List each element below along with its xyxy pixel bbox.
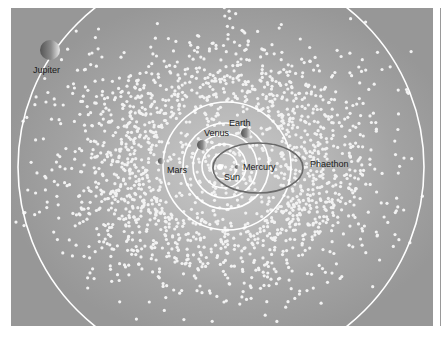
asteroid-dot (259, 287, 262, 290)
asteroid-dot (295, 97, 298, 100)
asteroid-dot (140, 101, 143, 104)
asteroid-dot (321, 98, 324, 101)
asteroid-dot (110, 226, 113, 229)
asteroid-dot (131, 231, 134, 234)
asteroid-dot (189, 184, 192, 187)
asteroid-dot (359, 169, 362, 172)
asteroid-dot (361, 244, 364, 247)
asteroid-dot (152, 243, 155, 246)
asteroid-dot (245, 107, 248, 110)
asteroid-dot (150, 62, 153, 65)
asteroid-dot (276, 162, 279, 165)
asteroid-dot (285, 249, 288, 252)
asteroid-dot (174, 40, 177, 43)
asteroid-dot (71, 92, 74, 95)
asteroid-dot (216, 222, 219, 225)
asteroid-dot (129, 153, 132, 156)
asteroid-dot (91, 124, 94, 127)
asteroid-dot (119, 95, 122, 98)
asteroid-dot (285, 98, 288, 101)
asteroid-dot (256, 237, 259, 240)
asteroid-dot (214, 93, 217, 96)
asteroid-dot (318, 69, 321, 72)
asteroid-dot (142, 201, 145, 204)
asteroid-dot (170, 95, 173, 98)
asteroid-dot (291, 214, 294, 217)
asteroid-dot (177, 233, 180, 236)
asteroid-dot (359, 156, 362, 159)
asteroid-dot (332, 204, 335, 207)
asteroid-dot (196, 216, 199, 219)
asteroid-dot (343, 174, 346, 177)
asteroid-dot (122, 168, 125, 171)
asteroid-dot (192, 253, 195, 256)
asteroid-dot (312, 177, 315, 180)
asteroid-dot (265, 97, 268, 100)
asteroid-dot (333, 177, 336, 180)
asteroid-dot (328, 200, 331, 203)
asteroid-dot (226, 233, 229, 236)
asteroid-dot (354, 142, 357, 145)
asteroid-dot (380, 201, 383, 204)
asteroid-dot (140, 188, 143, 191)
asteroid-dot (149, 189, 152, 192)
asteroid-dot (209, 73, 212, 76)
asteroid-dot (395, 197, 398, 200)
asteroid-dot (304, 249, 307, 252)
asteroid-dot (164, 226, 167, 229)
asteroid-dot (298, 222, 301, 225)
asteroid-dot (283, 177, 286, 180)
mercury-label: Mercury (243, 162, 276, 172)
asteroid-dot (202, 151, 205, 154)
asteroid-dot (134, 157, 137, 160)
asteroid-dot (100, 55, 103, 58)
asteroid-dot (301, 71, 304, 74)
asteroid-dot (309, 60, 312, 63)
asteroid-dot (292, 117, 295, 120)
asteroid-dot (267, 284, 270, 287)
asteroid-dot (259, 227, 262, 230)
asteroid-dot (147, 157, 150, 160)
asteroid-dot (304, 107, 307, 110)
asteroid-dot (119, 56, 122, 59)
asteroid-dot (167, 251, 170, 254)
asteroid-dot (167, 242, 170, 245)
asteroid-dot (200, 291, 203, 294)
asteroid-dot (287, 63, 290, 66)
asteroid-dot (137, 263, 140, 266)
asteroid-dot (314, 105, 317, 108)
asteroid-dot (286, 262, 289, 265)
asteroid-dot (226, 203, 229, 206)
asteroid-dot (270, 88, 273, 91)
asteroid-dot (392, 245, 395, 248)
asteroid-dot (346, 177, 349, 180)
asteroid-dot (314, 56, 317, 59)
asteroid-dot (189, 178, 192, 181)
asteroid-dot (121, 118, 124, 121)
asteroid-dot (178, 292, 181, 295)
asteroid-dot (313, 233, 316, 236)
asteroid-dot (332, 134, 335, 137)
asteroid-dot (312, 183, 315, 186)
asteroid-dot (78, 222, 81, 225)
asteroid-dot (273, 268, 276, 271)
asteroid-dot (131, 207, 134, 210)
asteroid-dot (138, 72, 141, 75)
asteroid-dot (393, 140, 396, 143)
asteroid-dot (308, 122, 311, 125)
asteroid-dot (101, 174, 104, 177)
asteroid-dot (237, 244, 240, 247)
asteroid-dot (318, 222, 321, 225)
asteroid-dot (101, 144, 104, 147)
asteroid-dot (229, 75, 232, 78)
asteroid-dot (301, 75, 304, 78)
asteroid-dot (117, 176, 120, 179)
asteroid-dot (124, 207, 127, 210)
asteroid-dot (296, 105, 299, 108)
asteroid-dot (46, 91, 49, 94)
asteroid-dot (196, 267, 199, 270)
asteroid-dot (304, 149, 307, 152)
asteroid-dot (133, 149, 136, 152)
asteroid-dot (186, 254, 189, 257)
asteroid-dot (103, 141, 106, 144)
